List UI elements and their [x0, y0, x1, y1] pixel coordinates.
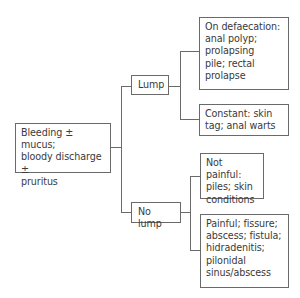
root-node-bleeding: Bleeding ± mucus; bloody discharge ± pru…	[15, 123, 111, 173]
connector-root-vertical	[121, 86, 122, 213]
connector-to-painful	[190, 250, 200, 251]
connector-to-not-painful	[190, 176, 200, 177]
connector-lump-out	[168, 86, 180, 87]
leaf-node-constant: Constant: skin tag; anal warts	[199, 104, 289, 136]
connector-no-lump-vertical	[190, 176, 191, 251]
connector-to-no-lump	[121, 212, 131, 213]
connector-no-lump-out	[180, 212, 190, 213]
connector-to-lump	[121, 86, 131, 87]
leaf-node-not-painful: Not painful: piles; skin conditions	[200, 153, 264, 199]
connector-root-out	[110, 147, 121, 148]
connector-to-defaecation	[180, 51, 199, 52]
branch-node-lump: Lump	[131, 75, 169, 95]
leaf-node-on-defaecation: On defaecation: anal polyp; prolapsing p…	[199, 17, 289, 90]
leaf-node-painful: Painful; fissure; abscess; fistula; hidr…	[200, 214, 289, 288]
branch-node-no-lump: No lump	[131, 202, 181, 223]
connector-to-constant	[180, 119, 199, 120]
connector-lump-vertical	[180, 51, 181, 120]
